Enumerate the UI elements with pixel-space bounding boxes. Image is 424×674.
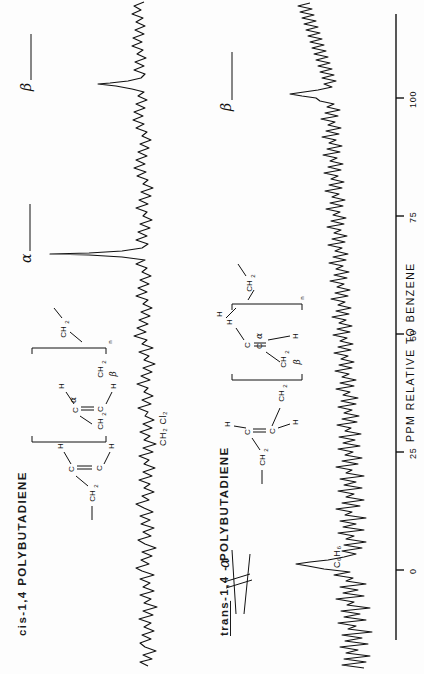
svg-text:2: 2	[64, 320, 70, 324]
axis-tick-25: 25	[408, 448, 418, 459]
structure-diagram-trans: CH2 C C H H CH2 CH2 β C	[208, 256, 326, 486]
svg-text:CH: CH	[96, 418, 105, 430]
svg-text:C: C	[96, 406, 105, 412]
svg-text:H: H	[291, 333, 300, 339]
structure-trans-beta-label: β	[292, 359, 302, 365]
svg-text:2: 2	[284, 350, 290, 354]
svg-text:H: H	[109, 383, 118, 389]
svg-text:C: C	[243, 429, 252, 435]
svg-text:H: H	[215, 311, 224, 317]
svg-text:CH: CH	[59, 326, 68, 338]
peak-label-cis-alpha: α	[18, 254, 34, 263]
svg-text:2: 2	[263, 448, 269, 452]
svg-text:2: 2	[93, 484, 99, 488]
svg-text:2: 2	[101, 412, 107, 416]
structure-trans-repeat-n: n	[299, 296, 305, 299]
svg-text:C: C	[71, 407, 80, 413]
svg-text:H: H	[291, 419, 300, 425]
axis-tick-75: 75	[408, 212, 418, 223]
svg-text:2: 2	[250, 274, 256, 278]
peak-label-trans-alpha-text: α	[216, 559, 232, 568]
svg-text:H: H	[56, 443, 65, 449]
peak-label-trans-beta: β	[218, 103, 234, 111]
solvent-label-trans-text: C₆H₆	[332, 545, 342, 568]
nmr-figure: cis-1,4 POLYBUTADIENE α CH₂ Cl₂ β	[0, 0, 424, 674]
peak-label-trans-beta-text: β	[218, 103, 234, 111]
svg-text:H: H	[107, 443, 116, 449]
svg-text:2: 2	[282, 384, 288, 388]
svg-text:CH: CH	[258, 454, 267, 466]
svg-text:CH: CH	[88, 490, 97, 502]
svg-text:CH: CH	[277, 390, 286, 402]
svg-text:C: C	[268, 428, 277, 434]
solvent-label-cis-text: CH₂ Cl₂	[158, 411, 168, 446]
peak-label-cis-alpha-text: α	[18, 254, 34, 263]
structure-cis-beta-label: β	[108, 371, 118, 377]
svg-text:C: C	[67, 466, 76, 472]
peak-label-cis-beta: β	[18, 83, 34, 91]
svg-text:H: H	[223, 421, 232, 427]
peak-label-cis-beta-text: β	[18, 83, 34, 91]
svg-text:C: C	[95, 465, 104, 471]
axis-tick-0: 0	[408, 568, 418, 574]
svg-text:H: H	[57, 383, 66, 389]
svg-text:CH: CH	[279, 356, 288, 368]
svg-text:C: C	[243, 342, 252, 348]
axis-label: PPM RELATIVE TO BENZENE	[404, 262, 416, 442]
svg-text:CH: CH	[96, 366, 105, 378]
peak-label-trans-alpha: α	[216, 559, 232, 568]
axis-tick-100: 100	[408, 91, 418, 108]
structure-cis-repeat-n: n	[107, 340, 113, 343]
svg-text:H: H	[225, 319, 234, 325]
structure-trans-alpha-label: α	[254, 333, 264, 339]
svg-text:CH: CH	[245, 280, 254, 292]
panel-title-trans-prefix: trans	[218, 601, 230, 636]
structure-diagram-cis: CH2 C C H H CH2 C	[6, 304, 124, 524]
svg-text:2: 2	[101, 360, 107, 364]
solvent-label-cis: CH₂ Cl₂	[158, 411, 168, 446]
figure-page: cis-1,4 POLYBUTADIENE α CH₂ Cl₂ β	[0, 0, 424, 674]
solvent-label-trans: C₆H₆	[332, 545, 342, 568]
